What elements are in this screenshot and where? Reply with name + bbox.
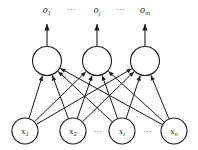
edge-in-n-to-out-j-line [108,71,164,122]
edge-in-n-to-out-1-arrowhead [60,68,66,72]
input-ellipsis-2: ··· [144,127,153,136]
output-label-o1: o1 [43,5,52,16]
edge-in-2-to-out-1-line [52,75,68,118]
output-stem-2-arrowhead [94,24,99,31]
input-ellipsis-1: ··· [94,127,103,136]
output-stem-3-arrowhead [142,24,147,31]
edge-in-1-to-out-m-arrowhead [126,69,132,73]
edge-in-n-to-out-j [108,71,164,122]
edge-in-2-to-out-j-arrowhead [88,75,92,81]
edge-in-i-to-out-m-arrowhead [137,76,141,82]
output-node-out-j [83,47,112,76]
output-stem-1-arrowhead [44,24,49,31]
output-node-out-m [131,47,160,76]
network-svg: o1ojom x1x2xixn ············ [0,0,198,150]
top-ellipsis-1: ··· [68,5,77,14]
edge-in-1-to-out-1 [29,76,43,119]
edge-in-i-to-out-j-arrowhead [102,75,106,81]
edge-in-1-to-out-m-line [37,69,132,124]
edge-in-2-to-out-1-arrowhead [52,75,56,81]
output-labels-group: o1ojom [43,5,150,17]
edge-in-n-to-out-1-line [60,68,162,124]
output-stem-1 [44,24,49,46]
edge-in-1-to-out-1-arrowhead [39,76,43,82]
neural-network-diagram: o1ojom x1x2xixn ············ [0,0,198,150]
output-stems-group [44,24,147,46]
top-ellipsis-2: ··· [117,5,126,14]
edges-group [29,68,169,124]
edge-in-n-to-out-1 [60,68,162,124]
edge-in-1-to-out-m [37,69,132,124]
output-stem-3 [142,24,147,46]
output-node-out-1 [33,47,62,76]
output-stem-2 [94,24,99,46]
output-label-o_j: oj [94,5,101,17]
edge-in-n-to-out-m-arrowhead [151,75,155,81]
output-nodes-group [33,47,160,76]
output-label-o_m: om [140,5,150,16]
edge-in-2-to-out-1 [52,75,68,118]
edge-in-1-to-out-1-line [29,76,42,119]
